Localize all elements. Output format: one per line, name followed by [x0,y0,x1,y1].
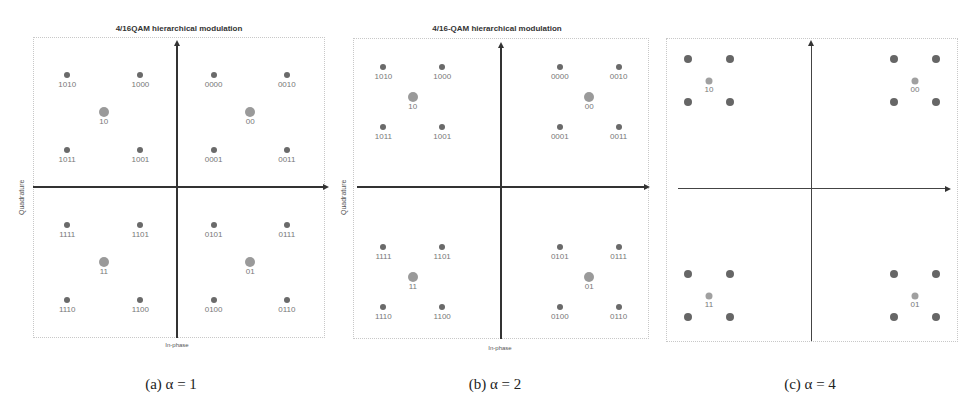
constellation-point [380,244,386,250]
x-axis-arrow-icon [644,184,650,190]
point-label: 0001 [205,155,223,164]
centroid-point [99,257,109,267]
point-label: 10 [408,102,417,111]
point-label: 1111 [59,230,75,239]
point-label: 1011 [59,155,76,164]
chart-title: 4/16-QAM hierarchical modulation [432,24,561,33]
constellation-point [726,98,734,106]
constellation-point [439,64,445,70]
point-label: 0100 [551,312,569,321]
point-label: 11 [409,282,417,291]
centroid-point [706,292,713,299]
constellation-point [616,64,622,70]
constellation-point [64,147,70,153]
centroid-point [912,292,919,299]
point-label: 1111 [375,252,391,261]
centroid-point [408,92,418,102]
centroid-point [99,107,109,117]
constellation-point [284,147,290,153]
constellation-point [64,222,70,228]
point-label: 1001 [433,132,451,141]
x-axis [33,186,323,188]
point-label: 11 [705,300,713,309]
constellation-point [726,313,734,321]
point-label: 0101 [205,230,223,239]
centroid-point [584,92,594,102]
point-label: 1011 [375,132,392,141]
constellation-point [684,313,692,321]
constellation-point [932,55,940,63]
point-label: 1000 [131,80,149,89]
y-axis-arrow-icon [808,40,814,46]
constellation-point [616,124,622,130]
centroid-point [912,77,919,84]
point-label: 1110 [59,305,76,314]
constellation-point [932,313,940,321]
y-axis-arrow-icon [498,42,504,48]
constellation-point [726,270,734,278]
constellation-point [137,147,143,153]
point-label: 10 [99,117,108,126]
point-label: 0111 [610,252,627,261]
x-axis-arrow-icon [323,184,329,190]
centroid-point [706,77,713,84]
constellation-point [616,304,622,310]
constellation-point [137,72,143,78]
constellation-point [557,244,563,250]
point-label: 1010 [374,72,392,81]
constellation-point [439,304,445,310]
constellation-point [684,270,692,278]
constellation-point [64,297,70,303]
point-label: 00 [585,102,594,111]
point-label: 0000 [551,72,569,81]
point-label: 1010 [58,80,76,89]
point-label: 1101 [132,230,149,239]
y-axis [176,44,178,338]
constellation-point [439,124,445,130]
constellation-point [284,72,290,78]
point-label: 1100 [132,305,149,314]
constellation-point [557,124,563,130]
point-label: 0011 [278,155,295,164]
point-label: 11 [100,267,108,276]
constellation-point [380,304,386,310]
point-label: 0110 [278,305,295,314]
constellation-point [64,72,70,78]
centroid-point [245,257,255,267]
point-label: 0010 [610,72,628,81]
constellation-point [284,222,290,228]
constellation-point [557,64,563,70]
point-label: 0100 [205,305,223,314]
x-axis-label: In-phase [488,345,511,351]
point-label: 0101 [551,252,569,261]
point-label: 1110 [375,312,392,321]
point-label: 0010 [278,80,296,89]
y-axis [500,46,502,339]
point-label: 0001 [551,132,569,141]
constellation-point [684,55,692,63]
constellation-point [890,313,898,321]
constellation-point [890,55,898,63]
point-label: 01 [246,267,255,276]
constellation-point [932,98,940,106]
y-axis [811,44,812,341]
point-label: 10 [705,85,714,94]
point-label: 00 [246,117,255,126]
constellation-point [211,297,217,303]
centroid-point [408,272,418,282]
point-label: 0111 [278,230,295,239]
point-label: 01 [585,282,594,291]
constellation-point [380,124,386,130]
constellation-point [211,72,217,78]
constellation-point [137,297,143,303]
constellation-point [211,222,217,228]
point-label: 1001 [131,155,149,164]
point-label: 0110 [610,312,627,321]
constellation-point [137,222,143,228]
centroid-point [245,107,255,117]
chart-title: 4/16QAM hierarchical modulation [116,24,243,33]
point-label: 00 [911,85,920,94]
constellation-point [284,297,290,303]
constellation-point [380,64,386,70]
y-axis-label: Quadrature [18,180,25,215]
